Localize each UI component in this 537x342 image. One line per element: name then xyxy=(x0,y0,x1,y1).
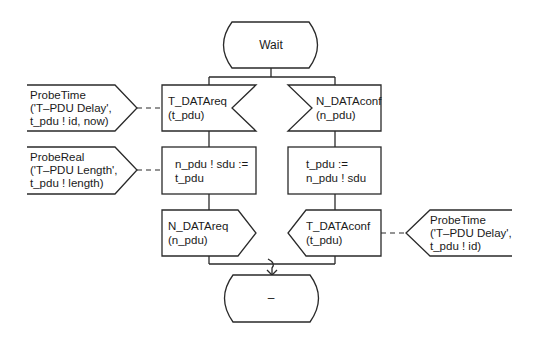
output-label: T_DATAconf xyxy=(306,220,371,232)
input-param: (t_pdu) xyxy=(168,109,205,121)
probe-arg-2: t_pdu ! id) xyxy=(430,240,481,252)
probe-name: ProbeTime xyxy=(30,89,86,101)
task-line-2: n_pdu ! sdu xyxy=(306,172,366,184)
input-label: T_DATAreq xyxy=(168,95,227,107)
task-line-1: n_pdu ! sdu := xyxy=(175,158,248,170)
output-signal-t-dataconf: T_DATAconf (t_pdu) xyxy=(288,210,381,256)
state-next: – xyxy=(225,275,319,322)
task-line-1: t_pdu := xyxy=(306,158,348,170)
probe-arg-1: ('T–PDU Length', xyxy=(30,164,118,176)
output-param: (n_pdu) xyxy=(168,234,208,246)
probe-arg-1: ('T–PDU Delay', xyxy=(30,102,112,114)
input-signal-n-dataconf: N_DATAconf (n_pdu) xyxy=(288,85,382,131)
probe-arg-2: t_pdu ! length) xyxy=(30,177,104,189)
state-wait: Wait xyxy=(224,22,318,68)
input-param: (n_pdu) xyxy=(316,109,356,121)
sdl-diagram: Wait T_DATAreq (t_pdu) N_DATAconf (n_pdu… xyxy=(0,0,537,342)
probe-time-delay-start: ProbeTime ('T–PDU Delay', t_pdu ! id, no… xyxy=(27,85,137,131)
input-label: N_DATAconf xyxy=(316,95,382,107)
probe-real-length: ProbeReal ('T–PDU Length', t_pdu ! lengt… xyxy=(27,147,137,194)
input-signal-t-datareq: T_DATAreq (t_pdu) xyxy=(162,85,256,131)
state-next-label: – xyxy=(268,291,275,305)
task-line-2: t_pdu xyxy=(175,172,204,184)
state-wait-label: Wait xyxy=(259,38,283,52)
probe-name: ProbeReal xyxy=(30,151,84,163)
output-param: (t_pdu) xyxy=(306,234,343,246)
probe-arg-2: t_pdu ! id, now) xyxy=(30,115,109,127)
probe-name: ProbeTime xyxy=(430,214,486,226)
probe-arg-1: ('T–PDU Delay', xyxy=(430,227,512,239)
probe-time-delay-end: ProbeTime ('T–PDU Delay', t_pdu ! id) xyxy=(406,210,512,256)
task-assign-sdu: n_pdu ! sdu := t_pdu xyxy=(162,147,256,194)
join-arrow-icon xyxy=(267,259,277,275)
task-assign-tpdu: t_pdu := n_pdu ! sdu xyxy=(288,147,381,194)
output-signal-n-datareq: N_DATAreq (n_pdu) xyxy=(162,210,256,256)
output-label: N_DATAreq xyxy=(168,220,228,232)
